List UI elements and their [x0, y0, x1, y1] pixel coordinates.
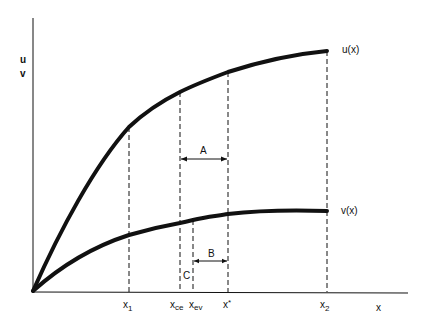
tick-x2: x2: [320, 300, 329, 310]
y-axis-label-u: u: [20, 55, 26, 65]
annotation-C: C: [183, 271, 190, 281]
figure: u v x u(x) v(x) x1 xce xev x* x2 A B C: [0, 0, 430, 329]
arrow-B: [194, 259, 227, 263]
y-axis-label-v: v: [20, 69, 26, 79]
arrow-A: [181, 157, 227, 162]
curve-v-label: v(x): [341, 206, 358, 216]
tick-x1: x1: [123, 300, 132, 310]
x-axis: [33, 292, 408, 293]
annotation-B: B: [208, 249, 215, 259]
tick-xstar: x*: [223, 300, 231, 310]
diagram-canvas: [0, 0, 430, 329]
tick-xce: xce: [170, 300, 183, 310]
annotation-A: A: [200, 146, 207, 156]
x-axis-label: x: [376, 303, 381, 313]
tick-xev: xev: [189, 300, 202, 310]
curve-u-label: u(x): [342, 45, 359, 55]
